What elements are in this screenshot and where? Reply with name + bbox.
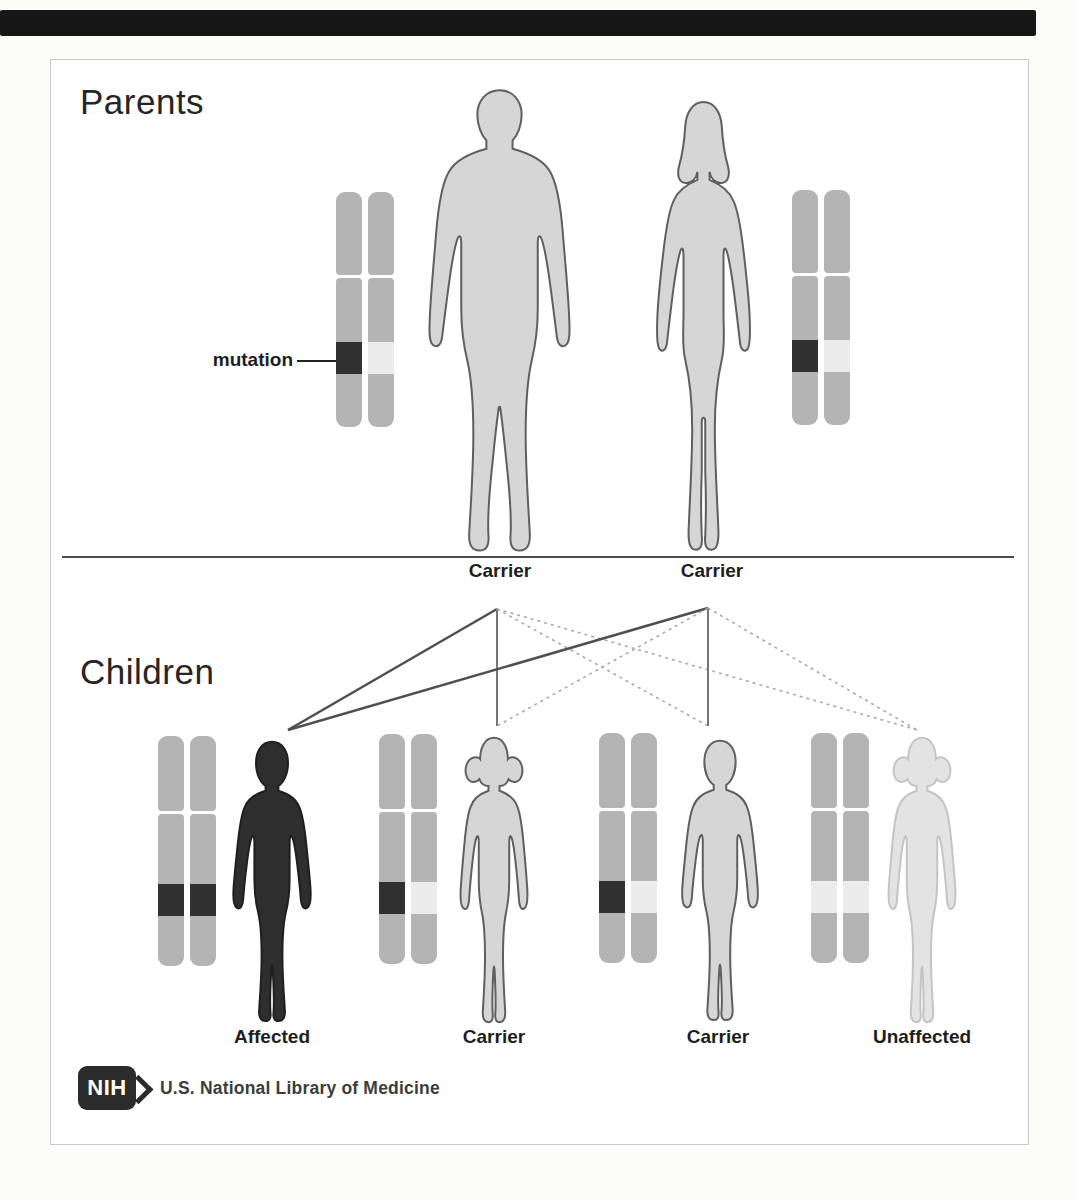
section-divider xyxy=(62,556,1014,558)
normal-band xyxy=(811,881,837,913)
normal-band xyxy=(824,340,850,372)
nih-logo: NIH xyxy=(78,1066,136,1110)
child-4-silhouette-unaffected xyxy=(877,732,967,1027)
normal-band xyxy=(843,881,869,913)
father-status-label: Carrier xyxy=(450,560,550,582)
normal-band xyxy=(411,882,437,914)
mother-chromosome-mutated xyxy=(792,190,818,425)
child-3-chromosome-pair xyxy=(599,733,657,963)
child-1-silhouette-affected xyxy=(224,736,320,1024)
mother-chromosome-pair xyxy=(792,190,850,425)
child-1-chromosome-mutated xyxy=(158,736,184,966)
child-1-chromosome-pair xyxy=(158,736,216,966)
child-1-status-label: Affected xyxy=(212,1026,332,1048)
father-chromosome-normal xyxy=(368,192,394,427)
child-3-chromosome-mutated xyxy=(599,733,625,963)
nih-library-text: U.S. National Library of Medicine xyxy=(160,1078,440,1099)
child-3-status-label: Carrier xyxy=(658,1026,778,1048)
child-3-silhouette-carrier xyxy=(673,735,767,1023)
father-silhouette xyxy=(424,85,575,568)
children-heading: Children xyxy=(80,652,214,692)
child-2-chromosome-normal xyxy=(411,734,437,964)
child-1-chromosome-mutated xyxy=(190,736,216,966)
mutation-band xyxy=(599,881,625,913)
mutation-band xyxy=(158,884,184,916)
mother-silhouette xyxy=(647,96,760,571)
child-4-chromosome-normal xyxy=(843,733,869,963)
mutation-pointer-line xyxy=(297,360,337,362)
child-4-chromosome-normal xyxy=(811,733,837,963)
child-4-chromosome-pair xyxy=(811,733,869,963)
father-chromosome-mutated xyxy=(336,192,362,427)
mutation-band xyxy=(792,340,818,372)
mutation-band xyxy=(379,882,405,914)
child-2-silhouette-carrier xyxy=(449,732,539,1027)
child-2-chromosome-mutated xyxy=(379,734,405,964)
child-4-status-label: Unaffected xyxy=(862,1026,982,1048)
mutation-band xyxy=(190,884,216,916)
parents-heading: Parents xyxy=(80,82,204,122)
scan-artifact-bar xyxy=(0,10,1036,36)
father-chromosome-pair xyxy=(336,192,394,427)
child-2-chromosome-pair xyxy=(379,734,437,964)
child-3-chromosome-normal xyxy=(631,733,657,963)
normal-band xyxy=(368,342,394,374)
mother-chromosome-normal xyxy=(824,190,850,425)
mutation-band xyxy=(336,342,362,374)
child-2-status-label: Carrier xyxy=(434,1026,554,1048)
normal-band xyxy=(631,881,657,913)
nih-logo-text: NIH xyxy=(87,1075,126,1101)
mutation-label: mutation xyxy=(150,349,293,371)
mother-status-label: Carrier xyxy=(662,560,762,582)
